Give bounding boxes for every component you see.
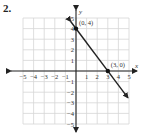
y-tick-label: 1 <box>71 57 74 64</box>
data-point <box>106 69 110 73</box>
line-series <box>71 21 128 97</box>
x-tick-label: −5 <box>20 73 27 80</box>
x-tick-label: 1 <box>85 73 88 80</box>
y-tick-label: 5 <box>71 15 74 22</box>
data-points: (0, 4)(3, 0) <box>74 19 125 74</box>
y-tick-label: −5 <box>67 121 74 128</box>
y-tick-label: −4 <box>67 110 75 117</box>
x-tick-label: 4 <box>117 73 121 80</box>
x-tick-label: −4 <box>30 73 38 80</box>
x-axis-label: x <box>134 62 139 70</box>
y-tick-label: 3 <box>71 36 74 43</box>
y-tick-label: −2 <box>67 89 74 96</box>
y-tick-label: −1 <box>67 78 74 85</box>
y-axis-label: y <box>78 8 83 16</box>
data-point <box>74 26 78 30</box>
point-label: (3, 0) <box>111 61 125 69</box>
coordinate-plane-chart: xy −5−4−3−2−112345−5−4−3−2−112345 (0, 4)… <box>0 0 144 134</box>
x-tick-label: 3 <box>106 73 109 80</box>
x-tick-label: −3 <box>41 73 48 80</box>
y-tick-label: 2 <box>71 46 74 53</box>
y-tick-label: −3 <box>67 99 74 106</box>
data-series <box>71 21 128 97</box>
point-label: (0, 4) <box>79 19 93 27</box>
x-tick-label: −2 <box>51 73 58 80</box>
x-tick-label: 5 <box>127 73 130 80</box>
x-tick-label: 2 <box>96 73 99 80</box>
